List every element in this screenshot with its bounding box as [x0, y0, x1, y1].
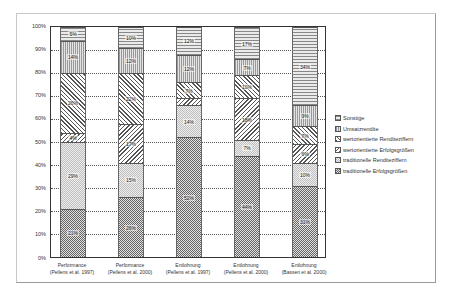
bar-segment: 14%	[177, 105, 201, 137]
legend-label: Sonstige	[343, 115, 364, 121]
stacked-bar: 31%10%6%7%9%34%	[292, 27, 318, 257]
data-label: 7%	[242, 65, 251, 71]
data-label: 12%	[183, 66, 195, 72]
bar-segment: 29%	[61, 142, 85, 209]
legend-label: traditionelle Erfolgsgrößen	[343, 168, 407, 174]
bar-segment: 7%	[235, 59, 259, 75]
y-tick-label: 10%	[20, 231, 46, 237]
bar-segment: 6%	[293, 144, 317, 162]
data-label: 4%	[68, 135, 77, 141]
bar-segment: 18%	[235, 98, 259, 139]
y-tick-label: 30%	[20, 185, 46, 191]
data-label: 7%	[300, 133, 309, 139]
data-label: 52%	[183, 195, 195, 201]
bar-segment: 12%	[119, 48, 143, 73]
bar-segment: 12%	[177, 55, 201, 83]
bar-segment: 15%	[119, 163, 143, 198]
bar-segment: 10%	[293, 163, 317, 186]
bar-segment: 7%	[293, 126, 317, 144]
data-label: 12%	[125, 58, 137, 64]
y-tick-label: 80%	[20, 69, 46, 75]
data-label: 14%	[183, 119, 195, 125]
legend-label: wertorientierte Renditeziffern	[343, 136, 413, 142]
legend-swatch-icon	[335, 115, 341, 121]
x-label-line1: Entlohnung	[269, 262, 339, 269]
data-label: 10%	[125, 35, 137, 41]
bar-segment: 26%	[119, 197, 143, 257]
legend-swatch-icon	[335, 126, 341, 132]
y-tick-label: 50%	[20, 139, 46, 145]
data-label: 6%	[300, 151, 309, 157]
bar-segment	[177, 98, 201, 105]
data-label: 5%	[68, 31, 77, 37]
bar-segment: 52%	[177, 137, 201, 257]
bar-segment: 17%	[235, 27, 259, 59]
legend-item: wertorientierte Renditeziffern	[335, 134, 414, 145]
legend-item: traditionelle Renditeziffern	[335, 155, 414, 166]
bar-segment: 5%	[61, 27, 85, 41]
y-tick-label: 40%	[20, 162, 46, 168]
plot-area: 21%29%4%26%14%5%26%15%17%22%12%10%52%14%…	[50, 26, 326, 258]
data-label: 18%	[241, 117, 253, 123]
legend-swatch-icon	[335, 168, 341, 174]
stacked-bar: 52%14%7%12%12%	[176, 27, 202, 257]
data-label: 10%	[241, 84, 253, 90]
x-tick-label: Entlohnung(Bassen et al. 2000)	[269, 262, 339, 276]
bar-segment: 44%	[235, 156, 259, 257]
bar-segment: 10%	[235, 75, 259, 98]
y-tick-label: 70%	[20, 92, 46, 98]
y-tick-label: 0%	[20, 255, 46, 261]
legend: SonstigeUmsatzrenditewertorientierte Ren…	[335, 113, 414, 176]
data-label: 22%	[125, 96, 137, 102]
data-label: 26%	[125, 225, 137, 231]
data-label: 15%	[125, 177, 137, 183]
x-label-line2: (Bassen et al. 2000)	[269, 269, 339, 276]
stacked-bar: 26%15%17%22%12%10%	[118, 27, 144, 257]
legend-swatch-icon	[335, 147, 341, 153]
data-label: 29%	[67, 173, 79, 179]
bar-segment: 4%	[61, 133, 85, 142]
data-label: 34%	[299, 64, 311, 70]
stacked-bar: 44%7%18%10%7%17%	[234, 27, 260, 257]
bar-segment: 34%	[293, 27, 317, 105]
data-label: 21%	[67, 230, 79, 236]
bar-segment: 31%	[293, 186, 317, 257]
data-label: 12%	[183, 38, 195, 44]
data-label: 31%	[299, 219, 311, 225]
bar-segment: 14%	[61, 41, 85, 73]
bar-segment: 7%	[235, 140, 259, 156]
legend-item: traditionelle Erfolgsgrößen	[335, 166, 414, 177]
y-tick-label: 20%	[20, 208, 46, 214]
bar-segment: 17%	[119, 124, 143, 163]
data-label: 44%	[241, 204, 253, 210]
legend-swatch-icon	[335, 136, 341, 142]
bar-segment: 21%	[61, 209, 85, 257]
data-label: 26%	[67, 100, 79, 106]
bar-segment: 10%	[119, 27, 143, 48]
legend-label: Umsatzrendite	[343, 126, 378, 132]
data-label: 17%	[241, 41, 253, 47]
data-label: 7%	[242, 145, 251, 151]
legend-item: Sonstige	[335, 113, 414, 124]
bar-segment: 22%	[119, 73, 143, 124]
y-tick-label: 90%	[20, 46, 46, 52]
data-label: 9%	[300, 113, 309, 119]
bar-segment: 9%	[293, 105, 317, 126]
legend-label: traditionelle Renditeziffern	[343, 157, 407, 163]
legend-item: Umsatzrendite	[335, 124, 414, 135]
bar-segment: 12%	[177, 27, 201, 55]
y-tick-label: 60%	[20, 115, 46, 121]
bar-segment: 7%	[177, 82, 201, 98]
legend-swatch-icon	[335, 157, 341, 163]
stacked-bar: 21%29%4%26%14%5%	[60, 27, 86, 257]
data-label: 10%	[299, 172, 311, 178]
y-tick-label: 100%	[20, 23, 46, 29]
data-label: 14%	[67, 54, 79, 60]
data-label: 7%	[184, 88, 193, 94]
legend-label: wertorientierte Erfolgsgrößen	[343, 147, 414, 153]
legend-item: wertorientierte Erfolgsgrößen	[335, 145, 414, 156]
bar-segment: 26%	[61, 73, 85, 133]
data-label: 17%	[125, 141, 137, 147]
